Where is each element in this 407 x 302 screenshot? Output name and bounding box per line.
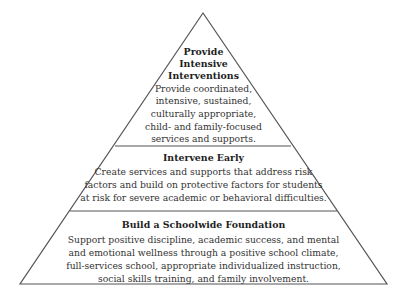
tier-middle-body-line: Create services and supports that addres…	[0, 166, 407, 178]
tier-bottom-body-line: and emotional wellness through a positiv…	[0, 247, 407, 259]
tier-top-heading-line: Provide	[0, 46, 407, 58]
tier-top-body-line: Provide coordinated,	[0, 83, 407, 95]
tier-top-heading-line: Interventions	[0, 70, 407, 82]
tier-top-heading-line: Intensive	[0, 58, 407, 70]
tier-top-body-line: services and supports.	[0, 133, 407, 145]
tier-bottom-body-line: Support positive discipline, academic su…	[0, 234, 407, 246]
tier-bottom-heading: Build a Schoolwide Foundation	[0, 219, 407, 231]
tier-top-body-line: child- and family-focused	[0, 121, 407, 133]
tier-top-body-line: intensive, sustained,	[0, 95, 407, 107]
tier-middle-heading: Intervene Early	[0, 152, 407, 164]
tier-bottom-body-line: social skills training, and family invol…	[0, 273, 407, 285]
tier-bottom-body-line: full-services school, appropriate indivi…	[0, 260, 407, 272]
tier-top-body-line: culturally appropriate,	[0, 108, 407, 120]
tier-middle-body-line: factors and build on protective factors …	[0, 179, 407, 191]
tier-middle-body-line: at risk for severe academic or behaviora…	[0, 192, 407, 204]
